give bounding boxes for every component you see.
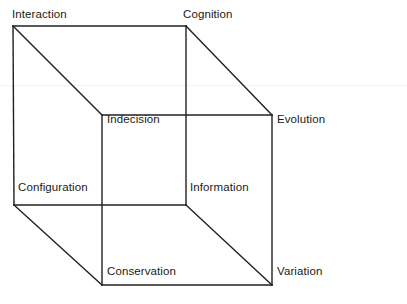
- vertex-label-interaction: Interaction: [12, 8, 67, 21]
- vertex-label-cognition: Cognition: [183, 8, 233, 21]
- edge-information-variation: [186, 205, 272, 285]
- vertex-label-configuration: Configuration: [18, 181, 88, 194]
- vertex-label-information: Information: [190, 181, 249, 194]
- cube-wireframe: [0, 0, 407, 304]
- edge-configuration-interaction: [13, 26, 14, 205]
- vertex-label-variation: Variation: [277, 265, 322, 278]
- vertex-label-conservation: Conservation: [107, 265, 176, 278]
- vertex-label-indecision: Indecision: [107, 113, 160, 126]
- edge-cognition-evolution: [186, 26, 272, 115]
- edge-interaction-indecision: [13, 26, 102, 115]
- cube-diagram: InteractionCognitionConfigurationInforma…: [0, 0, 407, 304]
- cube-edges: [13, 26, 272, 285]
- edge-configuration-conservation: [14, 205, 102, 285]
- vertex-label-evolution: Evolution: [277, 113, 325, 126]
